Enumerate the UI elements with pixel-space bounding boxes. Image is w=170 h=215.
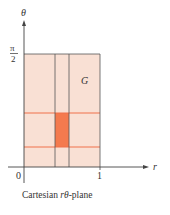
highlighted-cell [55, 113, 69, 147]
region-g [24, 54, 100, 167]
caption-suffix: -plane [69, 190, 93, 200]
theta-axis-arrow-icon [22, 20, 26, 26]
r-axis-label: r [153, 161, 157, 172]
caption-prefix: Cartesian [22, 190, 60, 200]
cartesian-r-theta-plane-diagram: θ r 0 1 π 2 G Cartesian rθ-plane [0, 0, 170, 215]
theta-tick-denominator: 2 [11, 54, 16, 64]
r-tick-label-1: 1 [97, 170, 102, 181]
r-axis-arrow-icon [143, 165, 149, 169]
caption: Cartesian rθ-plane [22, 190, 92, 200]
theta-tick-numerator: π [10, 43, 15, 53]
region-label-g: G [81, 75, 88, 86]
theta-axis-label: θ [21, 7, 26, 18]
origin-label: 0 [16, 170, 21, 181]
